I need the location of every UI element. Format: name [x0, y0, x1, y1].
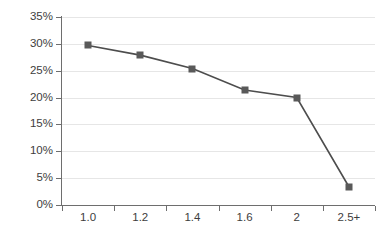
y-axis-tick	[56, 71, 61, 72]
data-point-marker	[293, 94, 300, 101]
y-axis-tick	[56, 151, 61, 152]
x-axis-tick	[323, 206, 324, 211]
line-chart: 0%5%10%15%20%25%30%35% 1.01.21.41.622.5+	[0, 0, 391, 234]
x-axis-tick	[219, 206, 220, 211]
x-axis-tick	[114, 206, 115, 211]
x-axis-tick	[62, 206, 63, 211]
x-axis-tick	[375, 206, 376, 211]
y-axis-tick	[56, 44, 61, 45]
y-axis-tick	[56, 205, 61, 206]
y-axis-tick	[56, 17, 61, 18]
x-axis-tick	[271, 206, 272, 211]
y-axis-tick	[56, 178, 61, 179]
data-point-marker	[345, 183, 352, 190]
y-axis-tick	[56, 124, 61, 125]
series-line	[0, 0, 391, 234]
y-axis-tick	[56, 98, 61, 99]
x-axis-tick	[166, 206, 167, 211]
data-point-marker	[241, 87, 248, 94]
data-point-marker	[189, 65, 196, 72]
data-point-marker	[137, 52, 144, 59]
data-point-marker	[85, 42, 92, 49]
